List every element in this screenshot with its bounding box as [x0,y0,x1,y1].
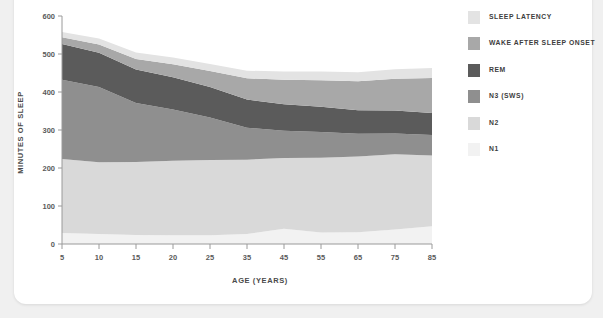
legend-item[interactable]: N3 (SWS) [468,90,600,104]
legend-swatch-icon [468,37,480,50]
y-axis-tick-label: 300 [42,126,55,135]
x-axis-tick-label: 75 [391,253,399,262]
x-axis-tick-label: 35 [243,253,251,262]
legend-item[interactable]: N1 [468,143,600,157]
y-axis-tick-label: 0 [51,240,55,249]
legend-item-label: N3 (SWS) [489,93,524,100]
plot-svg: 0100200300400500600510152025354555657585 [0,0,470,300]
legend-item-label: WAKE AFTER SLEEP ONSET [489,40,595,47]
legend-item[interactable]: WAKE AFTER SLEEP ONSET [468,37,600,51]
legend-swatch-icon [468,11,480,24]
legend-swatch-icon [468,117,480,130]
legend-item-label: N1 [489,146,499,153]
y-axis-label: MINUTES OF SLEEP [16,83,25,183]
y-axis-tick-label: 100 [42,202,55,211]
legend-item[interactable]: SLEEP LATENCY [468,10,600,24]
legend-item-label: SLEEP LATENCY [489,14,552,21]
x-axis-tick-label: 10 [95,253,103,262]
x-axis-tick-label: 45 [280,253,288,262]
y-axis-tick-label: 500 [42,50,55,59]
chart-legend: SLEEP LATENCYWAKE AFTER SLEEP ONSETREMN3… [468,10,600,169]
legend-item-label: REM [489,67,506,74]
stacked-area-chart: 0100200300400500600510152025354555657585… [0,0,470,300]
legend-item[interactable]: REM [468,63,600,77]
chart-page: 0100200300400500600510152025354555657585… [0,0,603,318]
legend-swatch-icon [468,90,480,103]
x-axis-tick-label: 55 [317,253,325,262]
x-axis-tick-label: 5 [60,253,64,262]
x-axis-tick-label: 20 [169,253,177,262]
y-axis-tick-label: 400 [42,88,55,97]
y-axis-tick-label: 200 [42,164,55,173]
x-axis-tick-label: 15 [132,253,140,262]
x-axis-tick-label: 65 [354,253,362,262]
legend-item-label: N2 [489,120,499,127]
x-axis-tick-label: 25 [206,253,214,262]
area-series-n2 [62,154,432,235]
x-axis-label: AGE (YEARS) [180,276,340,285]
legend-swatch-icon [468,143,480,156]
legend-swatch-icon [468,64,480,77]
x-axis-tick-label: 85 [428,253,436,262]
y-axis-tick-label: 600 [42,12,55,21]
legend-item[interactable]: N2 [468,116,600,130]
